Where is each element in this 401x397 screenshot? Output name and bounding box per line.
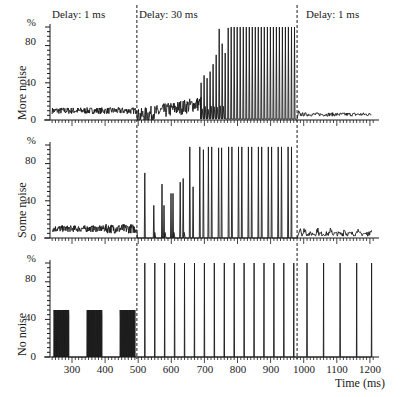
figure-canvas <box>0 0 401 397</box>
y-tick-0-top: 0 <box>14 114 36 125</box>
y-unit-bottom: % <box>14 253 36 264</box>
y-tick-80-middle: 80 <box>14 155 36 166</box>
y-tick-80-top: 80 <box>14 36 36 47</box>
y-tick-0-bottom: 0 <box>14 351 36 362</box>
y-tick-40-bottom: 40 <box>14 312 36 323</box>
y-tick-40-middle: 40 <box>14 195 36 206</box>
panel-top-ylabel: More noise <box>15 66 30 120</box>
phase1-label: Delay: 1 ms <box>52 9 105 20</box>
activity-trace-more-noise <box>52 27 371 120</box>
panel-middle-ylabel: Some noise <box>15 182 30 238</box>
phase2-label: Delay: 30 ms <box>139 9 198 20</box>
y-unit-middle: % <box>14 135 36 146</box>
y-unit-top: % <box>14 17 36 28</box>
y-tick-0-middle: 0 <box>14 232 36 243</box>
x-tick-1200: 1200 <box>350 364 390 375</box>
phase3-label: Delay: 1 ms <box>306 9 359 20</box>
y-tick-40-top: 40 <box>14 77 36 88</box>
y-tick-80-bottom: 80 <box>14 273 36 284</box>
x-axis-label: Time (ms) <box>335 378 385 389</box>
activity-trace-no-noise <box>52 263 372 357</box>
activity-trace-some-noise <box>52 147 372 238</box>
